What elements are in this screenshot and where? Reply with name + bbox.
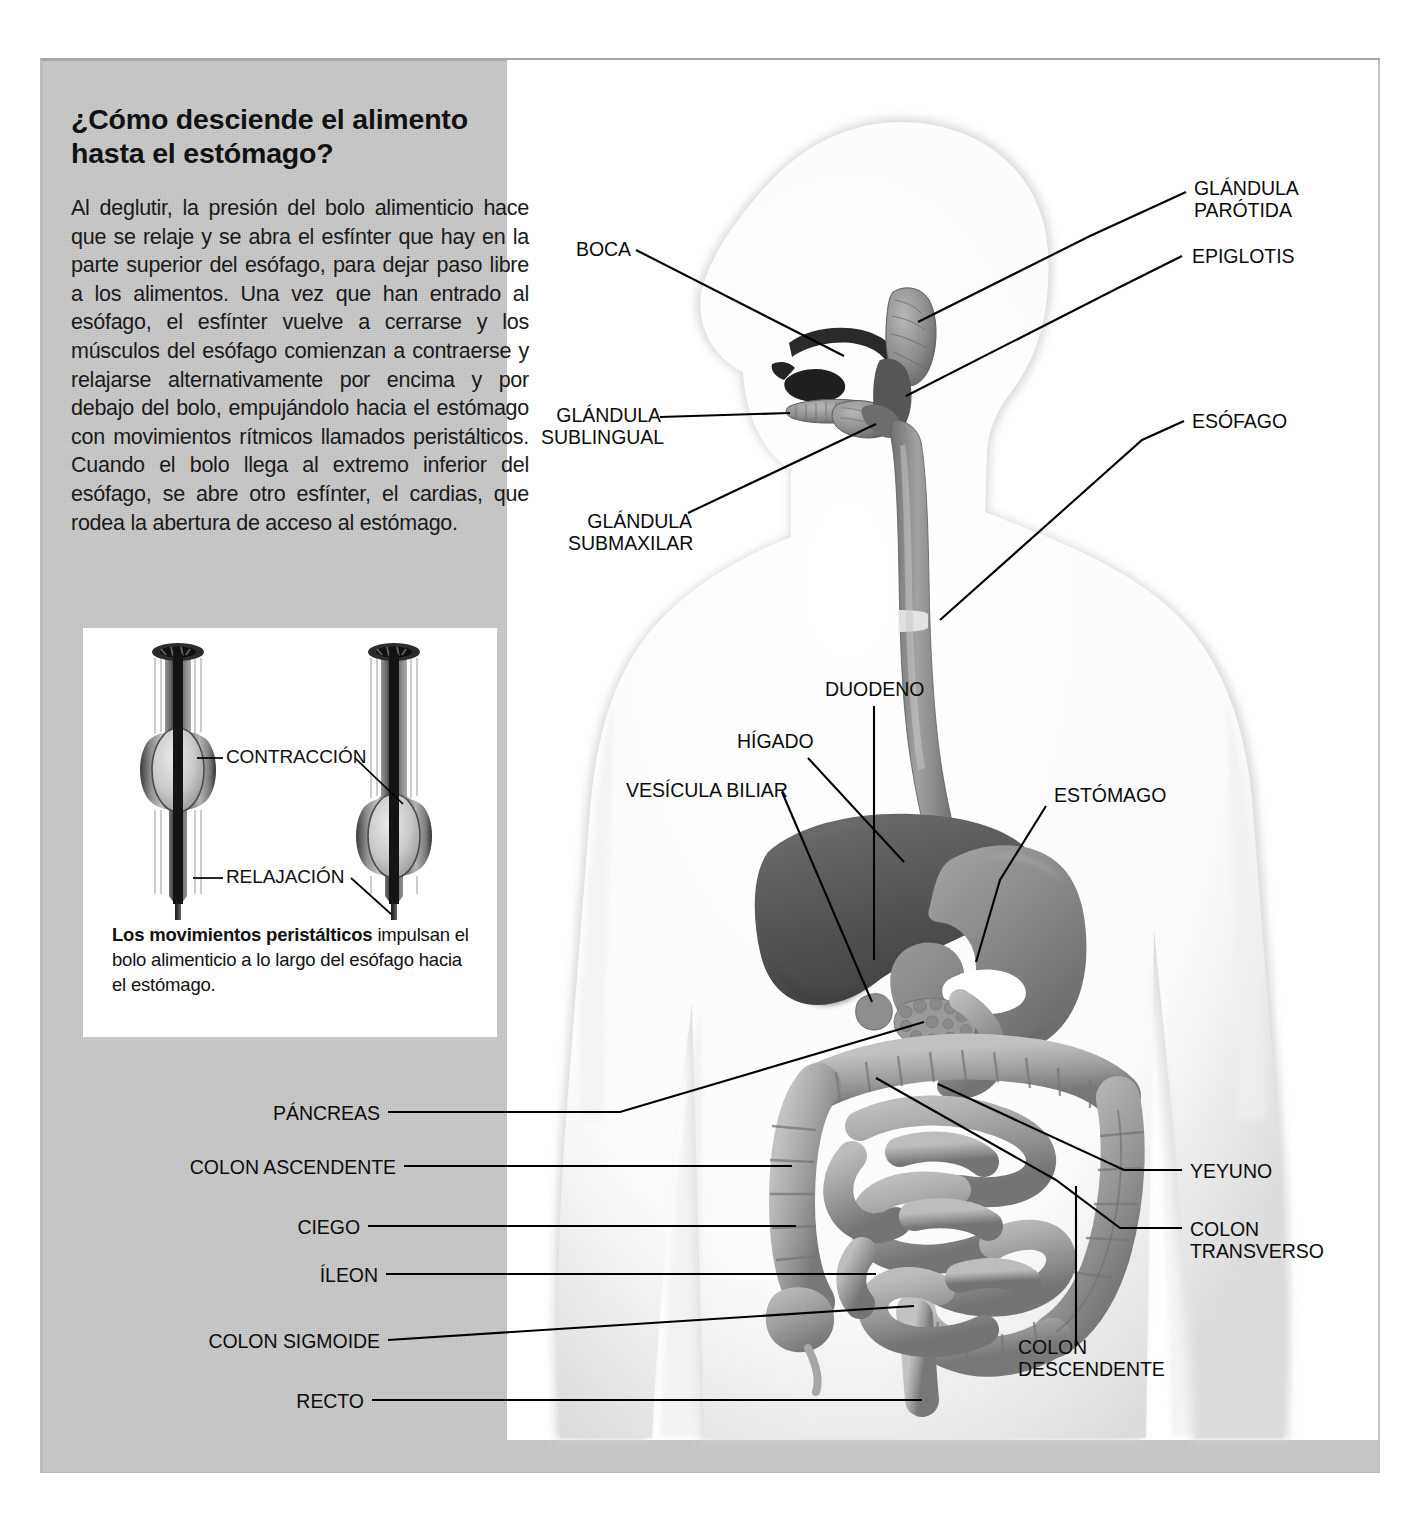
page-title: ¿Cómo desciende el alimento hasta el est… <box>71 102 523 170</box>
label-estomago: ESTÓMAGO <box>1054 784 1166 806</box>
label-duodeno: DUODENO <box>825 678 924 700</box>
label-colon-sigmoide: COLON SIGMOIDE <box>170 1330 380 1352</box>
inset-caption: Los movimientos peristálticos impulsan e… <box>112 923 472 997</box>
label-colon-transverso: COLON TRANSVERSO <box>1190 1218 1324 1262</box>
label-glandula-parotida: GLÁNDULA PARÓTIDA <box>1194 177 1299 221</box>
label-pancreas: PÁNCREAS <box>238 1102 380 1124</box>
label-yeyuno: YEYUNO <box>1190 1160 1272 1182</box>
label-glandula-submaxilar: GLÁNDULA SUBMAXILAR <box>568 510 692 554</box>
label-epiglotis: EPIGLOTIS <box>1192 245 1295 267</box>
label-colon-ascendente: COLON ASCENDENTE <box>148 1156 396 1178</box>
esophagus-segment-right <box>355 643 432 920</box>
page-root: ¿Cómo desciende el alimento hasta el est… <box>0 0 1416 1537</box>
peristalsis-inset: CONTRACCIÓN RELAJACIÓN Los movimientos p… <box>83 628 497 1037</box>
label-recto: RECTO <box>244 1390 364 1412</box>
label-higado: HÍGADO <box>737 730 814 752</box>
inset-caption-bold: Los movimientos peristálticos <box>112 924 372 945</box>
label-vesicula-biliar: VESÍCULA BILIAR <box>626 779 788 801</box>
label-boca: BOCA <box>576 238 631 260</box>
label-ciego: CIEGO <box>248 1216 360 1238</box>
label-ileon: ÍLEON <box>254 1264 378 1286</box>
inset-label-relajacion: RELAJACIÓN <box>226 866 344 888</box>
label-colon-descendente: COLON DESCENDENTE <box>1018 1336 1165 1380</box>
article-body: Al deglutir, la presión del bolo aliment… <box>71 194 529 537</box>
inset-label-contraccion: CONTRACCIÓN <box>226 746 366 768</box>
label-glandula-sublingual: GLÁNDULA SUBLINGUAL <box>541 404 661 448</box>
label-esofago: ESÓFAGO <box>1192 410 1287 432</box>
